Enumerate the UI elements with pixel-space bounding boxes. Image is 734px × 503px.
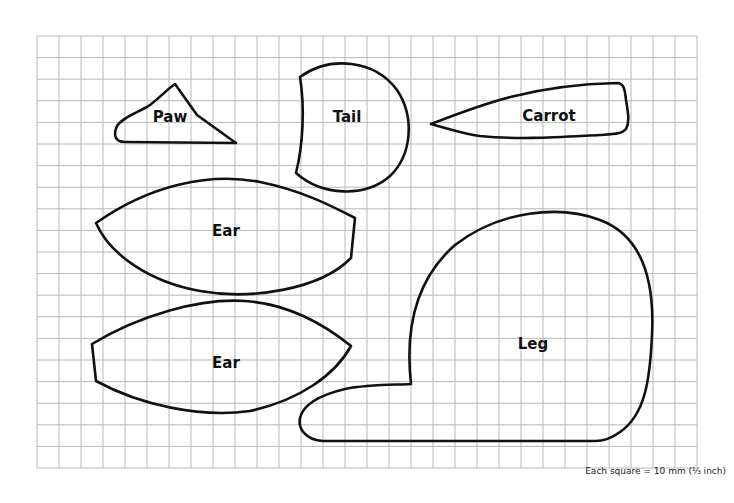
pattern-sheet: PawTailCarrotEarEarLeg [0, 0, 734, 503]
piece-tail: Tail [296, 63, 409, 191]
piece-label: Tail [333, 108, 362, 126]
piece-carrot: Carrot [431, 83, 628, 138]
piece-label: Ear [212, 354, 240, 372]
piece-outline [296, 63, 409, 191]
piece-ear-top: Ear [96, 179, 355, 294]
piece-paw: Paw [115, 84, 236, 143]
piece-ear-bottom: Ear [92, 301, 351, 413]
scale-caption: Each square = 10 mm (¹⁄₃ inch) [585, 466, 726, 476]
piece-label: Leg [518, 335, 548, 353]
piece-label: Carrot [522, 107, 575, 125]
piece-label: Paw [153, 108, 188, 126]
piece-label: Ear [212, 222, 240, 240]
